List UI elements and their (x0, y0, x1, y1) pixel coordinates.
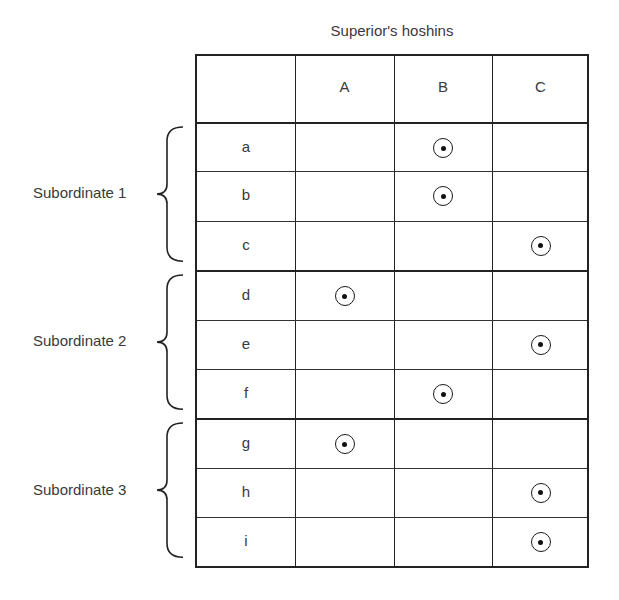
circled-dot-icon (531, 532, 551, 552)
table-row: h (197, 468, 587, 517)
subordinate-group-label: Subordinate 3 (33, 481, 126, 498)
table-row: g (197, 418, 587, 467)
left-brace-icon (155, 126, 185, 262)
column-header-a: A (295, 78, 394, 95)
row-label: d (197, 286, 295, 303)
table-row: d (197, 270, 587, 319)
hoshin-matrix: A B C abcdefghi (195, 54, 589, 568)
row-label: f (197, 384, 295, 401)
row-label: e (197, 335, 295, 352)
subordinate-group-label: Subordinate 2 (33, 332, 126, 349)
table-row: i (197, 517, 587, 566)
column-header-b: B (394, 78, 492, 95)
row-label: c (197, 236, 295, 253)
row-label: g (197, 434, 295, 451)
matrix-title: Superior's hoshins (195, 22, 589, 39)
circled-dot-icon (531, 483, 551, 503)
circled-dot-icon (531, 335, 551, 355)
table-row: a (197, 122, 587, 171)
circled-dot-icon (433, 186, 453, 206)
circled-dot-icon (335, 434, 355, 454)
circled-dot-icon (433, 384, 453, 404)
row-label: b (197, 186, 295, 203)
row-label: a (197, 138, 295, 155)
row-label: i (197, 532, 295, 549)
circled-dot-icon (531, 236, 551, 256)
left-brace-icon (155, 274, 185, 410)
subordinate-group-label: Subordinate 1 (33, 184, 126, 201)
left-brace-icon (155, 422, 185, 558)
row-label: h (197, 483, 295, 500)
circled-dot-icon (433, 138, 453, 158)
table-row: c (197, 221, 587, 270)
table-row: e (197, 320, 587, 369)
table-row: f (197, 369, 587, 418)
circled-dot-icon (335, 286, 355, 306)
column-header-c: C (492, 78, 589, 95)
table-row: b (197, 171, 587, 220)
